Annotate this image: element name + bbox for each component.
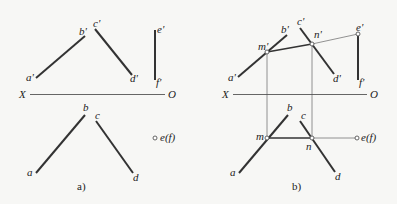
label-b: b <box>83 101 89 113</box>
panel-b: X O a' b' c' d' e' f' m' n' a b c d e(f)… <box>221 15 378 193</box>
label-m-prime: m' <box>258 40 269 52</box>
label-e-f: e(f) <box>160 131 176 144</box>
label-n-prime: n' <box>314 28 323 40</box>
label-a-prime: a' <box>228 71 237 83</box>
label-f-prime: f' <box>359 76 365 88</box>
label-a-prime: a' <box>26 71 35 83</box>
label-e-prime: e' <box>356 21 364 33</box>
label-n: n <box>306 140 312 152</box>
axis-o-label: O <box>168 88 176 100</box>
label-a: a <box>230 166 236 178</box>
label-d: d <box>133 171 139 183</box>
label-c: c <box>301 109 306 121</box>
axis-o-label: O <box>370 88 378 100</box>
label-d-prime: d' <box>130 72 139 84</box>
panel-a: X O a' b' c' d' e' f' a b c d e(f) a) <box>18 17 176 193</box>
descriptive-geometry-figure: X O a' b' c' d' e' f' a b c d e(f) a) X … <box>0 0 397 204</box>
line-a-b-front <box>36 36 85 78</box>
label-m: m <box>256 130 264 142</box>
label-c-prime: c' <box>93 17 101 29</box>
label-a: a <box>27 166 33 178</box>
axis-x-label: X <box>221 88 230 100</box>
diagram-svg: X O a' b' c' d' e' f' a b c d e(f) a) X … <box>0 0 397 204</box>
caption-a: a) <box>77 180 86 193</box>
label-d: d <box>335 170 341 182</box>
line-a-b-top <box>239 115 288 173</box>
line-c-d-top <box>96 121 133 173</box>
point-n-prime <box>310 42 314 46</box>
label-b-prime: b' <box>79 25 88 37</box>
label-f-prime: f' <box>156 76 162 88</box>
point-ef <box>355 136 359 140</box>
label-b: b <box>287 101 293 113</box>
label-e-prime: e' <box>157 23 165 35</box>
caption-b: b) <box>292 180 302 193</box>
point-ef-top <box>153 136 157 140</box>
label-c-prime: c' <box>297 15 305 27</box>
label-e-f: e(f) <box>361 131 377 144</box>
line-a-b-top <box>36 115 85 173</box>
line-c-d-front <box>95 29 132 75</box>
axis-x-label: X <box>18 88 27 100</box>
label-b-prime: b' <box>281 23 290 35</box>
label-c: c <box>95 109 100 121</box>
label-d-prime: d' <box>333 72 342 84</box>
point-m <box>265 136 269 140</box>
